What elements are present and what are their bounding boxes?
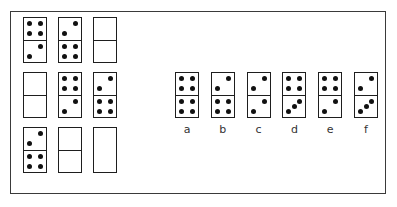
domino-half-bottom: [94, 150, 116, 172]
option-domino-d[interactable]: [282, 72, 306, 118]
option-label-d: d: [282, 123, 306, 136]
option-domino-f[interactable]: [354, 72, 378, 118]
domino-half-top: [24, 128, 46, 150]
pip-dot-icon: [190, 86, 195, 91]
domino-half-top: [94, 128, 116, 150]
domino-half-top: [59, 18, 81, 40]
missing-domino-slot[interactable]: [93, 127, 117, 173]
grid-domino-r1c2: [58, 17, 82, 63]
pip-dot-icon: [262, 99, 267, 104]
pip-dot-icon: [27, 21, 32, 26]
pip-dot-icon: [333, 76, 338, 81]
domino-half-top: [24, 18, 46, 40]
pip-dot-icon: [38, 131, 43, 136]
option-label-f: f: [354, 123, 378, 136]
domino-half-top: [94, 73, 116, 95]
pip-dot-icon: [358, 86, 363, 91]
pip-dot-icon: [27, 164, 32, 169]
domino-half-top: [59, 73, 81, 95]
pip-dot-icon: [62, 76, 67, 81]
option-label-b: b: [211, 123, 235, 136]
pip-dot-icon: [73, 54, 78, 59]
option-domino-e[interactable]: [318, 72, 342, 118]
domino-half-bottom: [94, 95, 116, 117]
pip-dot-icon: [286, 76, 291, 81]
grid-domino-r2c1: [23, 72, 47, 118]
pip-dot-icon: [73, 76, 78, 81]
domino-half-bottom: [59, 40, 81, 62]
pip-dot-icon: [179, 86, 184, 91]
pip-dot-icon: [369, 76, 374, 81]
pip-dot-icon: [108, 109, 113, 114]
pip-dot-icon: [190, 76, 195, 81]
option-label-e: e: [318, 123, 342, 136]
domino-half-top: [94, 18, 116, 40]
pip-dot-icon: [27, 141, 32, 146]
pip-dot-icon: [73, 99, 78, 104]
pip-dot-icon: [262, 76, 267, 81]
pip-dot-icon: [27, 54, 32, 59]
domino-half-top: [212, 73, 234, 95]
pip-dot-icon: [97, 109, 102, 114]
pip-dot-icon: [364, 104, 369, 109]
pip-dot-icon: [190, 109, 195, 114]
pip-dot-icon: [179, 99, 184, 104]
pip-dot-icon: [286, 86, 291, 91]
domino-half-top: [24, 73, 46, 95]
domino-half-top: [355, 73, 377, 95]
pip-dot-icon: [38, 164, 43, 169]
domino-half-bottom: [212, 95, 234, 117]
domino-half-bottom: [283, 95, 305, 117]
domino-half-bottom: [59, 95, 81, 117]
domino-half-bottom: [176, 95, 198, 117]
domino-half-top: [176, 73, 198, 95]
pip-dot-icon: [297, 76, 302, 81]
domino-half-bottom: [248, 95, 270, 117]
domino-half-top: [248, 73, 270, 95]
pip-dot-icon: [108, 99, 113, 104]
domino-half-top: [319, 73, 341, 95]
pip-dot-icon: [73, 21, 78, 26]
option-label-a: a: [175, 123, 199, 136]
pip-dot-icon: [62, 31, 67, 36]
domino-half-bottom: [355, 95, 377, 117]
option-domino-a[interactable]: [175, 72, 199, 118]
pip-dot-icon: [215, 86, 220, 91]
domino-half-bottom: [59, 150, 81, 172]
option-domino-c[interactable]: [247, 72, 271, 118]
pip-dot-icon: [97, 99, 102, 104]
pip-dot-icon: [251, 86, 256, 91]
domino-half-top: [59, 128, 81, 150]
pip-dot-icon: [286, 109, 291, 114]
pip-dot-icon: [27, 154, 32, 159]
pip-dot-icon: [62, 54, 67, 59]
pip-dot-icon: [251, 109, 256, 114]
pip-dot-icon: [358, 109, 363, 114]
pip-dot-icon: [297, 86, 302, 91]
domino-half-top: [283, 73, 305, 95]
domino-half-bottom: [319, 95, 341, 117]
pip-dot-icon: [369, 99, 374, 104]
pip-dot-icon: [226, 99, 231, 104]
domino-half-bottom: [94, 40, 116, 62]
pip-dot-icon: [322, 76, 327, 81]
pip-dot-icon: [38, 21, 43, 26]
domino-half-bottom: [24, 40, 46, 62]
pip-dot-icon: [226, 109, 231, 114]
pip-dot-icon: [38, 44, 43, 49]
grid-domino-r3c2: [58, 127, 82, 173]
option-label-c: c: [247, 123, 271, 136]
pip-dot-icon: [38, 31, 43, 36]
pip-dot-icon: [62, 109, 67, 114]
pip-dot-icon: [333, 99, 338, 104]
domino-half-bottom: [24, 95, 46, 117]
domino-half-bottom: [24, 150, 46, 172]
option-domino-b[interactable]: [211, 72, 235, 118]
grid-domino-r2c3: [93, 72, 117, 118]
pip-dot-icon: [38, 154, 43, 159]
pip-dot-icon: [215, 99, 220, 104]
pip-dot-icon: [190, 99, 195, 104]
pip-dot-icon: [179, 76, 184, 81]
pip-dot-icon: [322, 109, 327, 114]
pip-dot-icon: [333, 86, 338, 91]
